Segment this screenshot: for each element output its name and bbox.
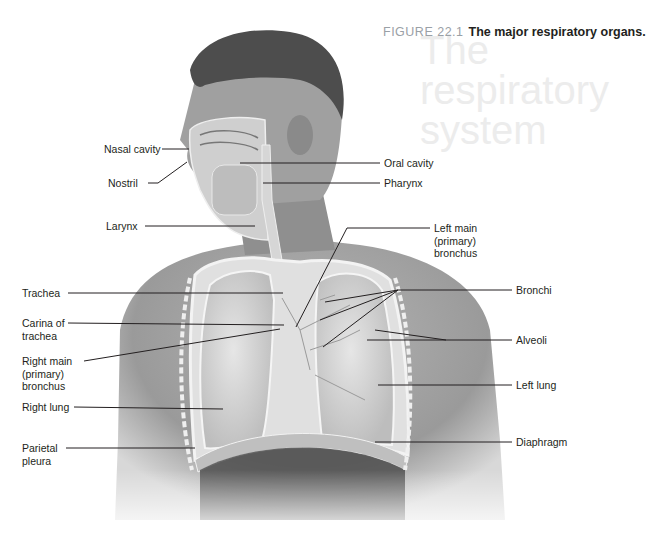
figure-number: FIGURE 22.1: [383, 25, 464, 39]
label-carina-of-trachea: Carina of trachea: [22, 317, 65, 342]
label-nostril: Nostril: [108, 177, 138, 190]
label-left-lung: Left lung: [516, 379, 556, 392]
label-alveoli: Alveoli: [516, 334, 547, 347]
label-right-main-bronchus: Right main (primary) bronchus: [22, 355, 72, 393]
figure-caption: FIGURE 22.1The major respiratory organs.: [383, 25, 646, 39]
label-larynx: Larynx: [106, 220, 138, 233]
right-lung: [200, 271, 274, 448]
label-trachea: Trachea: [22, 287, 60, 300]
label-parietal-pleura: Parietal pleura: [22, 442, 58, 467]
left-lung: [315, 274, 393, 445]
label-bronchi: Bronchi: [516, 284, 552, 297]
label-pharynx: Pharynx: [384, 177, 423, 190]
label-left-main-bronchus: Left main (primary) bronchus: [434, 222, 477, 260]
label-diaphragm: Diaphragm: [516, 436, 567, 449]
label-oral-cavity: Oral cavity: [384, 157, 434, 170]
figure-title: The major respiratory organs.: [469, 25, 646, 39]
ear-shape: [287, 115, 313, 155]
label-right-lung: Right lung: [22, 401, 69, 414]
label-nasal-cavity: Nasal cavity: [104, 143, 161, 156]
